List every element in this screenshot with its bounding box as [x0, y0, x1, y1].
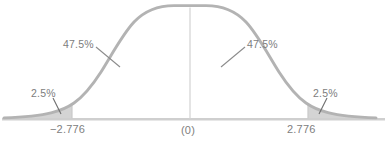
axis-tick-label-center: (0): [181, 125, 195, 136]
left-tail-percent-label: 2.5%: [31, 88, 56, 99]
left-area-leader-line: [96, 47, 120, 67]
right-area-percent-label: 47.5%: [247, 39, 278, 50]
right-area-leader-line: [221, 47, 245, 67]
left-area-percent-label: 47.5%: [63, 39, 94, 50]
right-tail-percent-label: 2.5%: [313, 88, 338, 99]
normal-distribution-figure: 47.5% 47.5% 2.5% 2.5% −2.776 (0) 2.776: [0, 0, 387, 153]
axis-tick-label-left-critical: −2.776: [50, 124, 85, 135]
axis-tick-label-right-critical: 2.776: [287, 124, 316, 135]
